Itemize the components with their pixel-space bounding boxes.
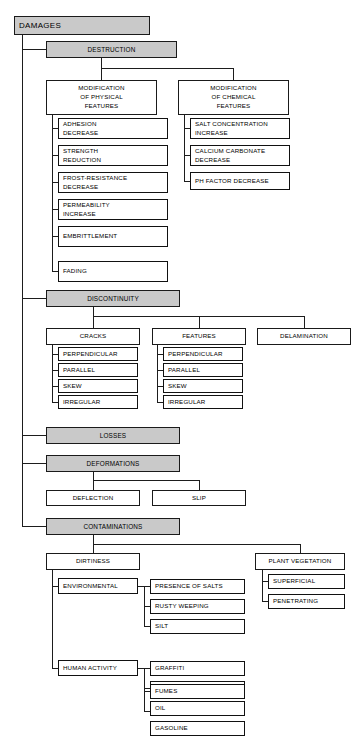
node-superficial[interactable]: SUPERFICIAL: [268, 574, 345, 589]
node-crack-skew[interactable]: SKEW: [58, 379, 138, 393]
connector-contaminations: [22, 526, 46, 527]
node-label: SUPERFICIAL: [273, 577, 315, 586]
node-label: FROST-RESISTANCE DECREASE: [63, 174, 127, 192]
connector-destruction-drop: [101, 58, 102, 68]
spine-physical: [52, 115, 53, 271]
node-crack-perpendicular[interactable]: PERPENDICULAR: [58, 347, 138, 361]
node-embrittlement[interactable]: EMBRITTLEMENT: [58, 226, 168, 247]
node-label: MODIFICATION OF PHYSICAL FEATURES: [78, 84, 124, 111]
node-human-activity[interactable]: HUMAN ACTIVITY: [58, 660, 138, 676]
connector-discontinuity: [22, 298, 46, 299]
node-environmental[interactable]: ENVIRONMENTAL: [58, 578, 138, 594]
node-label: MODIFICATION OF CHEMICAL FEATURES: [210, 84, 256, 111]
node-label: PH FACTOR DECREASE: [195, 177, 269, 186]
connector-destruction: [22, 49, 46, 50]
node-dirtiness[interactable]: DIRTINESS: [46, 553, 140, 570]
node-label: IRREGULAR: [168, 398, 205, 407]
node-label: GASOLINE: [155, 724, 188, 733]
node-features[interactable]: FEATURES: [152, 328, 246, 345]
node-label: DISCONTINUITY: [87, 294, 139, 303]
node-silt[interactable]: SILT: [150, 619, 245, 634]
node-label: PERMEABILITY INCREASE: [63, 201, 110, 219]
spine-main: [22, 35, 23, 526]
node-oil[interactable]: OIL: [150, 701, 245, 716]
node-feature-irregular[interactable]: IRREGULAR: [163, 395, 243, 409]
node-label: SKEW: [168, 382, 187, 391]
node-label: DIRTINESS: [76, 557, 110, 566]
connector-losses: [22, 435, 46, 436]
node-label: DEFORMATIONS: [87, 459, 140, 468]
connector-deformations: [22, 463, 46, 464]
node-label: SKEW: [63, 382, 82, 391]
node-feature-perpendicular[interactable]: PERPENDICULAR: [163, 347, 243, 361]
node-permeability-increase[interactable]: PERMEABILITY INCREASE: [58, 199, 168, 220]
node-fumes[interactable]: FUMES: [150, 684, 245, 699]
node-delamination[interactable]: DELAMINATION: [257, 328, 351, 345]
connector-dirtiness-drop: [93, 544, 94, 553]
node-label: STRENGTH REDUCTION: [63, 147, 101, 165]
node-label: IRREGULAR: [63, 398, 100, 407]
connector-contaminations-bus: [93, 544, 300, 545]
node-label: LOSSES: [100, 431, 126, 440]
node-label: OIL: [155, 704, 165, 713]
connector-physical-drop: [101, 68, 102, 80]
node-strength-reduction[interactable]: STRENGTH REDUCTION: [58, 145, 168, 166]
node-label: CONTAMINATIONS: [83, 522, 142, 531]
connector-deflection-drop: [93, 480, 94, 490]
node-modification-physical-features[interactable]: MODIFICATION OF PHYSICAL FEATURES: [46, 80, 157, 115]
node-feature-skew[interactable]: SKEW: [163, 379, 243, 393]
node-salt-concentration-increase[interactable]: SALT CONCENTRATION INCREASE: [190, 118, 290, 139]
node-label: PARALLEL: [168, 366, 200, 375]
connector-chemical-drop: [233, 68, 234, 80]
node-deformations[interactable]: DEFORMATIONS: [46, 455, 180, 472]
connector-cracks-drop: [93, 316, 94, 328]
spine-human-activity: [144, 668, 145, 711]
node-label: FEATURES: [182, 332, 216, 341]
node-frost-resistance-decrease[interactable]: FROST-RESISTANCE DECREASE: [58, 172, 168, 193]
spine-chemical: [184, 115, 185, 181]
node-label: ADHESION DECREASE: [63, 120, 98, 138]
node-label: PARALLEL: [63, 366, 95, 375]
node-adhesion-decrease[interactable]: ADHESION DECREASE: [58, 118, 168, 139]
diagram-canvas: DAMAGES DESTRUCTION MODIFICATION OF PHYS…: [0, 0, 361, 740]
node-fading[interactable]: FADING: [58, 261, 168, 282]
node-label: PENETRATING: [273, 597, 318, 606]
node-ph-factor-decrease[interactable]: PH FACTOR DECREASE: [190, 172, 290, 190]
node-crack-irregular[interactable]: IRREGULAR: [58, 395, 138, 409]
node-label: SILT: [155, 622, 168, 631]
node-slip[interactable]: SLIP: [152, 490, 246, 506]
node-destruction[interactable]: DESTRUCTION: [46, 41, 177, 58]
node-label: PLANT VEGETATION: [269, 557, 332, 566]
node-label: FUMES: [155, 687, 177, 696]
node-damages[interactable]: DAMAGES: [14, 16, 150, 35]
node-label: DEFLECTION: [73, 494, 114, 503]
node-feature-parallel[interactable]: PARALLEL: [163, 363, 243, 377]
node-label: PRESENCE OF SALTS: [155, 582, 223, 591]
node-label: RUSTY WEEPING: [155, 602, 209, 611]
node-graffiti[interactable]: GRAFFITI: [150, 661, 245, 676]
node-label: SLIP: [192, 494, 206, 503]
node-rusty-weeping[interactable]: RUSTY WEEPING: [150, 599, 245, 614]
node-modification-chemical-features[interactable]: MODIFICATION OF CHEMICAL FEATURES: [178, 80, 289, 115]
node-gasoline[interactable]: GASOLINE: [150, 721, 245, 736]
connector-deformations-bus: [93, 480, 199, 481]
node-label: EMBRITTLEMENT: [63, 232, 117, 241]
node-deflection[interactable]: DEFLECTION: [46, 490, 140, 506]
node-label: PERPENDICULAR: [168, 350, 223, 359]
connector-deformations-drop: [93, 472, 94, 480]
node-losses[interactable]: LOSSES: [46, 427, 180, 444]
spine-dirtiness: [52, 570, 53, 668]
node-penetrating[interactable]: PENETRATING: [268, 594, 345, 609]
node-calcium-carbonate-decrease[interactable]: CALCIUM CARBONATE DECREASE: [190, 145, 290, 166]
connector-delamination-drop: [304, 316, 305, 328]
node-label: DELAMINATION: [280, 332, 328, 341]
node-label: ENVIRONMENTAL: [63, 582, 118, 591]
node-contaminations[interactable]: CONTAMINATIONS: [46, 518, 180, 535]
node-cracks[interactable]: CRACKS: [46, 328, 140, 345]
connector-contaminations-drop: [93, 535, 94, 544]
node-crack-parallel[interactable]: PARALLEL: [58, 363, 138, 377]
node-discontinuity[interactable]: DISCONTINUITY: [46, 290, 180, 307]
node-presence-of-salts[interactable]: PRESENCE OF SALTS: [150, 579, 245, 594]
connector-plant-vegetation-drop: [300, 544, 301, 553]
node-plant-vegetation[interactable]: PLANT VEGETATION: [255, 553, 345, 570]
